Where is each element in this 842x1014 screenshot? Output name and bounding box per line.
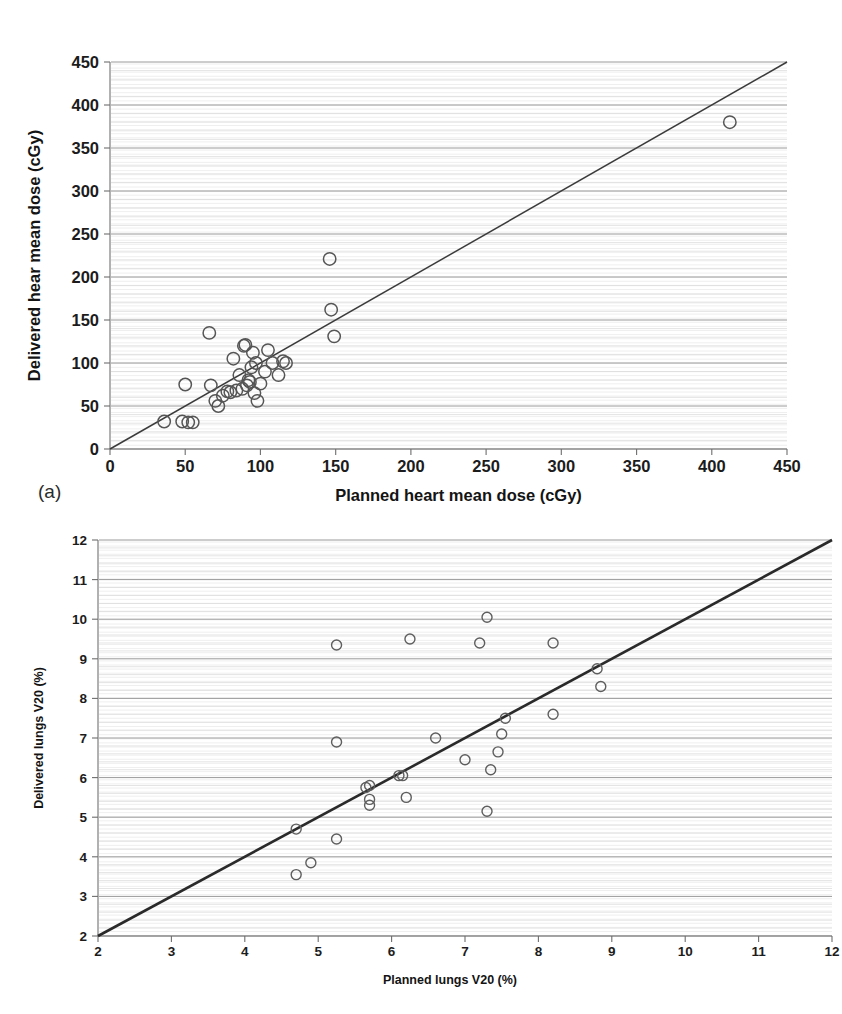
y-tick-label: 4 [79, 850, 87, 865]
x-tick-label: 3 [168, 944, 176, 959]
y-tick-label: 50 [81, 397, 99, 415]
scatter-panel-a: 0501001502002503003504004500501001502002… [0, 0, 842, 512]
y-tick-label: 12 [72, 533, 87, 548]
data-point-marker [323, 253, 335, 265]
y-tick-label: 2 [79, 929, 87, 944]
data-point-marker [205, 379, 217, 391]
figure-container: 0501001502002503003504004500501001502002… [0, 0, 842, 1014]
x-tick-label: 150 [322, 457, 350, 475]
data-point-marker [328, 330, 340, 342]
x-tick-label: 9 [608, 944, 616, 959]
x-axis-title: Planned heart mean dose (cGy) [335, 486, 582, 504]
y-tick-label: 3 [79, 889, 87, 904]
y-tick-label: 6 [79, 771, 87, 786]
y-tick-label: 200 [71, 268, 99, 286]
y-tick-label: 9 [79, 652, 87, 667]
x-tick-label: 12 [824, 944, 839, 959]
y-tick-label: 5 [79, 810, 87, 825]
x-tick-label: 4 [241, 944, 249, 959]
y-tick-label: 0 [90, 440, 99, 458]
data-point-marker [251, 395, 263, 407]
y-tick-label: 300 [71, 182, 99, 200]
data-point-marker [306, 858, 316, 868]
y-tick-label: 450 [71, 53, 99, 71]
data-point-marker [272, 369, 284, 381]
data-point-marker [596, 682, 606, 692]
y-tick-label: 400 [71, 96, 99, 114]
x-tick-label: 2 [94, 944, 102, 959]
data-point-marker [158, 415, 170, 427]
x-tick-label: 0 [105, 457, 114, 475]
x-tick-label: 200 [397, 457, 425, 475]
data-point-marker [482, 806, 492, 816]
x-axis-title: Planned lungs V20 (%) [383, 973, 517, 987]
y-axis-ticks: 050100150200250300350400450 [71, 53, 110, 458]
y-tick-label: 10 [72, 612, 87, 627]
x-tick-label: 450 [773, 457, 801, 475]
x-tick-label: 6 [388, 944, 396, 959]
y-axis-ticks: 23456789101112 [72, 533, 98, 944]
x-tick-label: 350 [623, 457, 651, 475]
x-tick-label: 300 [548, 457, 576, 475]
scatter-plot-b-svg: 2345678910111223456789101112Planned lung… [0, 512, 842, 1014]
x-tick-label: 10 [678, 944, 693, 959]
data-point-marker [365, 794, 375, 804]
data-point-marker [482, 612, 492, 622]
y-tick-label: 250 [71, 225, 99, 243]
data-point-marker [365, 800, 375, 810]
data-point-marker [405, 634, 415, 644]
data-point-marker [332, 834, 342, 844]
data-points [158, 116, 736, 429]
x-tick-label: 50 [176, 457, 194, 475]
x-axis-ticks: 050100150200250300350400450 [105, 449, 800, 475]
scatter-plot-a-svg: 0501001502002503003504004500501001502002… [0, 0, 842, 512]
y-axis-title: Delivered lungs V20 (%) [32, 667, 46, 809]
y-tick-label: 100 [71, 354, 99, 372]
x-tick-label: 8 [535, 944, 543, 959]
y-axis-title: Delivered hear mean dose (cGy) [25, 130, 43, 381]
data-point-marker [401, 792, 411, 802]
x-tick-label: 7 [461, 944, 469, 959]
y-tick-label: 150 [71, 311, 99, 329]
scatter-panel-b: 2345678910111223456789101112Planned lung… [0, 512, 842, 1014]
y-tick-label: 11 [73, 573, 88, 588]
x-tick-label: 11 [751, 944, 766, 959]
y-tick-label: 8 [79, 691, 87, 706]
x-tick-label: 5 [314, 944, 322, 959]
panel-label-a: (a) [38, 481, 61, 503]
x-tick-label: 400 [698, 457, 726, 475]
y-tick-label: 7 [79, 731, 87, 746]
x-tick-label: 100 [247, 457, 275, 475]
x-tick-label: 250 [472, 457, 500, 475]
x-axis-ticks: 23456789101112 [94, 936, 839, 959]
y-tick-label: 350 [71, 139, 99, 157]
